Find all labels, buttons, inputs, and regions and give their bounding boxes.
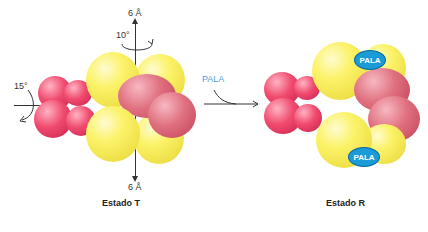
rotation-arrow-icon bbox=[14, 88, 36, 124]
top-translation-label: 6 Å bbox=[128, 8, 142, 18]
t-state-diagram: 6 Å 10° 15° 6 Å Estado T bbox=[0, 0, 214, 232]
regulatory-subunit bbox=[148, 92, 196, 138]
rotation-arrow-icon bbox=[118, 36, 158, 54]
pala-ligand-badge: PALA bbox=[348, 147, 380, 167]
up-arrow-icon bbox=[132, 18, 138, 24]
r-state-diagram: PALA PALA Estado R bbox=[250, 0, 428, 232]
r-state-caption: Estado R bbox=[326, 198, 365, 208]
t-state-caption: Estado T bbox=[102, 198, 140, 208]
bottom-translation-label: 6 Å bbox=[128, 182, 142, 192]
catalytic-subunit bbox=[86, 106, 140, 162]
pala-ligand-badge: PALA bbox=[354, 50, 386, 70]
